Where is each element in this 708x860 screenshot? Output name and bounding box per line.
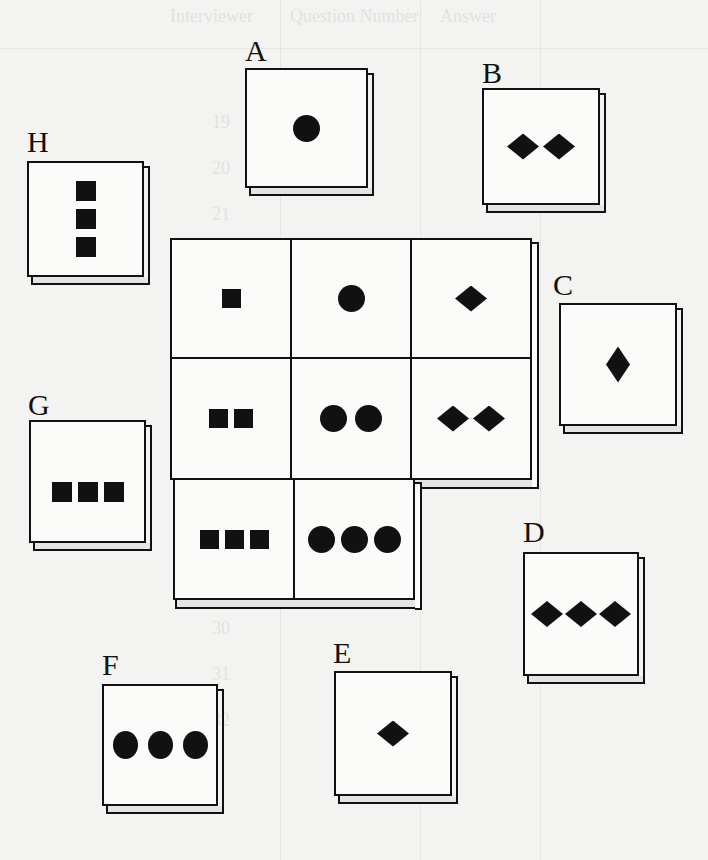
bleed-number: 19 [212, 112, 230, 133]
matrix-cell-r1c2 [290, 238, 412, 359]
diamond-icon [507, 134, 539, 160]
matrix-cell-r2c1 [170, 357, 292, 480]
diamond-icon [531, 601, 563, 627]
option-e-tile[interactable] [334, 671, 452, 796]
circle-icon [374, 526, 401, 553]
bleed-rule [0, 48, 708, 49]
matrix-cell-r3c2 [293, 478, 415, 600]
square-icon [78, 482, 98, 502]
square-icon [209, 409, 228, 428]
option-b-label: B [482, 58, 502, 88]
circle-icon [293, 115, 320, 142]
square-icon [250, 530, 269, 549]
option-f-label: F [102, 650, 119, 680]
matrix-cell-r2c2 [290, 357, 412, 480]
square-icon [200, 530, 219, 549]
square-icon [76, 237, 96, 257]
option-d-label: D [523, 517, 545, 547]
circle-icon [113, 731, 138, 759]
bleed-number: 30 [212, 618, 230, 639]
circle-icon [338, 285, 365, 312]
diamond-icon [473, 406, 505, 432]
diamond-icon [606, 347, 630, 383]
circle-icon [355, 405, 382, 432]
option-b-tile[interactable] [482, 88, 600, 205]
option-a-tile[interactable] [245, 68, 368, 188]
diamond-icon [437, 406, 469, 432]
bleed-header-question: Question Number [290, 6, 418, 27]
bleed-number: 20 [212, 158, 230, 179]
option-e-label: E [333, 638, 351, 668]
circle-icon [183, 731, 208, 759]
matrix-cell-r1c1 [170, 238, 292, 359]
puzzle-matrix [170, 238, 530, 600]
circle-icon [341, 526, 368, 553]
option-c-tile[interactable] [559, 303, 677, 426]
option-g-label: G [28, 390, 50, 420]
option-h-tile[interactable] [27, 161, 144, 277]
option-a-label: A [245, 36, 267, 66]
square-icon [52, 482, 72, 502]
circle-icon [148, 731, 173, 759]
circle-icon [320, 405, 347, 432]
tile-depth-edge [412, 480, 535, 489]
square-icon [76, 209, 96, 229]
bleed-number: 21 [212, 204, 230, 225]
option-h-label: H [27, 127, 49, 157]
square-icon [222, 289, 241, 308]
diamond-icon [543, 134, 575, 160]
diamond-icon [377, 721, 409, 747]
circle-icon [308, 526, 335, 553]
option-c-label: C [553, 270, 573, 300]
diamond-icon [565, 601, 597, 627]
tile-depth-edge [175, 600, 418, 609]
option-f-tile[interactable] [102, 684, 218, 806]
matrix-cell-r1c3 [410, 238, 532, 359]
square-icon [225, 530, 244, 549]
bleed-header-answer: Answer [440, 6, 496, 27]
square-icon [76, 181, 96, 201]
option-d-tile[interactable] [523, 552, 639, 676]
tile-depth-edge [532, 242, 539, 489]
matrix-cell-r3c1 [173, 478, 295, 600]
square-icon [104, 482, 124, 502]
diamond-icon [455, 286, 487, 312]
bleed-number: 31 [212, 664, 230, 685]
option-g-tile[interactable] [29, 420, 146, 543]
matrix-missing-cell [418, 490, 528, 600]
matrix-cell-r2c3 [410, 357, 532, 480]
square-icon [234, 409, 253, 428]
diamond-icon [599, 601, 631, 627]
bleed-header-interviewer: Interviewer [170, 6, 253, 27]
